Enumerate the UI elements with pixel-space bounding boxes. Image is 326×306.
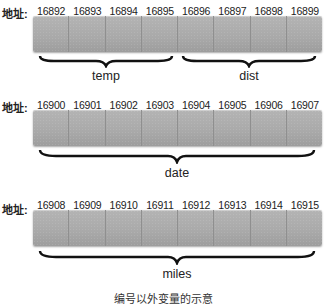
brace-icon — [38, 148, 316, 164]
variable-label-temp: temp — [86, 69, 126, 83]
memory-cell — [106, 210, 142, 246]
variable-label-date: date — [157, 166, 197, 180]
memory-cell — [33, 110, 69, 146]
memory-cell — [251, 210, 287, 246]
memory-cell — [33, 210, 69, 246]
memory-row-1: 地址: 16892 16893 16894 16895 16896 16897 … — [0, 0, 326, 95]
variable-label-dist: dist — [229, 69, 269, 83]
memory-cell — [33, 16, 69, 52]
variable-label-miles: miles — [152, 267, 202, 281]
memory-cell — [178, 110, 214, 146]
brace-icon — [181, 54, 317, 68]
brace-icon — [38, 249, 316, 265]
address-label: 地址: — [2, 201, 28, 217]
memory-cell — [178, 210, 214, 246]
address-label: 地址: — [2, 5, 28, 21]
memory-cell — [251, 110, 287, 146]
memory-cell — [287, 210, 322, 246]
memory-row-3: 地址: 16908 16909 16910 16911 16912 16913 … — [0, 190, 326, 290]
memory-cell — [287, 110, 322, 146]
memory-cell — [142, 110, 178, 146]
address-label: 地址: — [2, 99, 28, 115]
memory-cell — [69, 16, 105, 52]
memory-cell — [287, 16, 322, 52]
memory-bar — [33, 16, 322, 52]
memory-row-2: 地址: 16900 16901 16902 16903 16904 16905 … — [0, 95, 326, 190]
memory-cell — [214, 16, 250, 52]
memory-cell — [178, 16, 214, 52]
memory-cell — [251, 16, 287, 52]
memory-cell — [106, 16, 142, 52]
memory-cell — [142, 16, 178, 52]
memory-cell — [106, 110, 142, 146]
memory-bar — [33, 110, 322, 146]
figure-caption: 编号以外变量的示意 — [0, 290, 326, 306]
memory-cell — [214, 110, 250, 146]
memory-cell — [69, 110, 105, 146]
memory-cell — [214, 210, 250, 246]
brace-icon — [38, 54, 174, 68]
memory-cell — [69, 210, 105, 246]
memory-cell — [142, 210, 178, 246]
memory-bar — [33, 210, 322, 246]
